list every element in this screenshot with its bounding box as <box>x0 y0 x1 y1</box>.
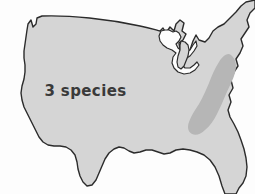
species-range-map-figure: 3 species <box>0 0 255 194</box>
us-map-svg <box>0 0 255 194</box>
